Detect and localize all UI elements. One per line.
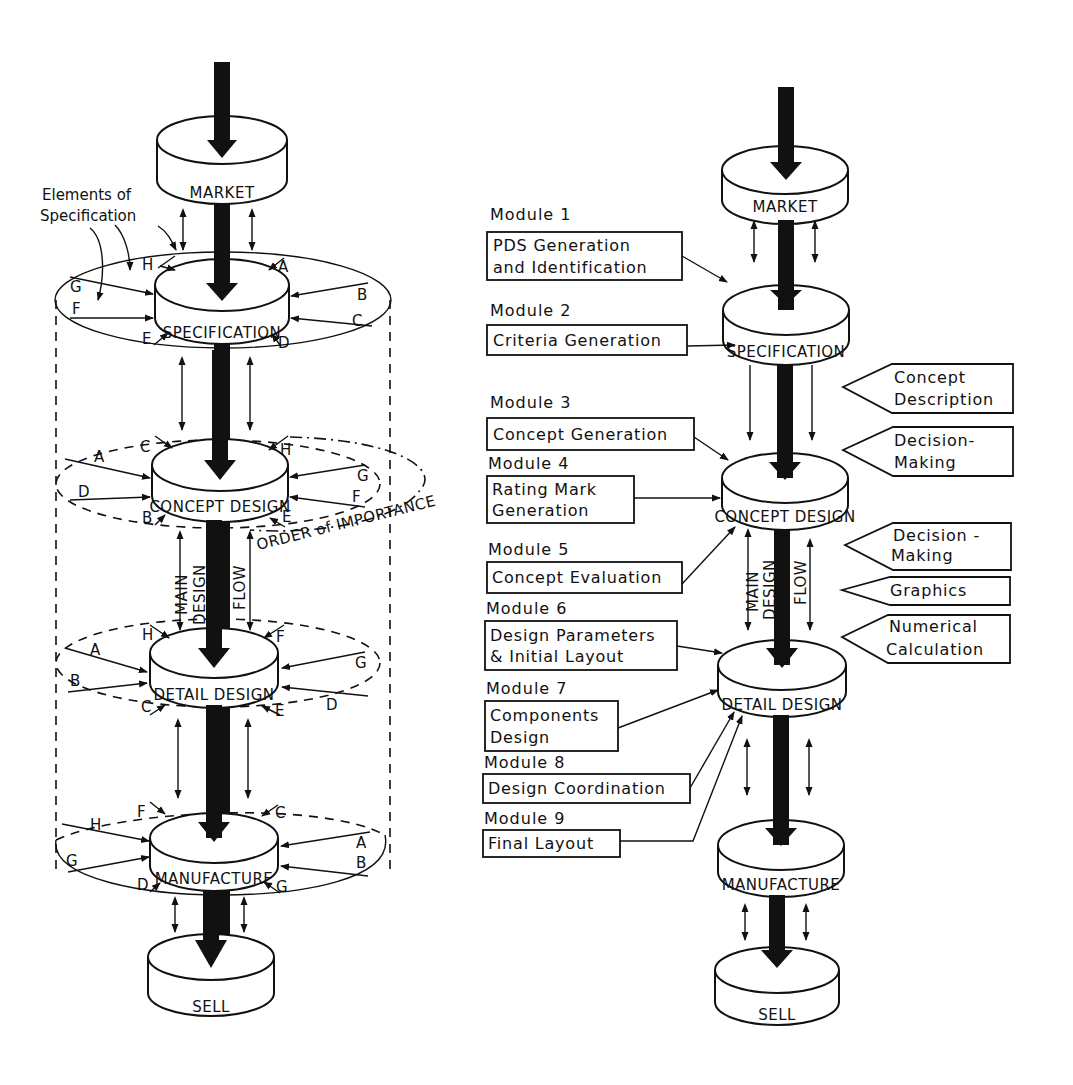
- elements-label: Elements of: [42, 186, 132, 204]
- svg-text:A: A: [278, 258, 289, 276]
- svg-text:Module 5: Module 5: [488, 540, 569, 559]
- svg-text:C: C: [275, 804, 285, 822]
- left-diagram: MARKET SPECIFICATION CONCEPT DESIGN DETA: [40, 62, 438, 1016]
- svg-text:Module 6: Module 6: [486, 599, 567, 618]
- tool-concept-description: Concept Description: [843, 364, 1013, 413]
- module-3: Module 3 Concept Generation: [487, 393, 728, 460]
- svg-text:F: F: [72, 300, 81, 318]
- manufacture-stage: MANUFACTURE: [150, 705, 278, 891]
- svg-text:A: A: [94, 448, 105, 466]
- svg-text:Graphics: Graphics: [890, 581, 967, 600]
- flow-label-design-right: DESIGN: [761, 559, 779, 620]
- flow-label-flow: FLOW: [231, 565, 249, 610]
- svg-text:Module 8: Module 8: [484, 753, 565, 772]
- svg-text:H: H: [280, 441, 291, 459]
- stage-label: MANUFACTURE: [155, 870, 274, 888]
- stage-label: MANUFACTURE: [722, 876, 841, 894]
- svg-text:H: H: [90, 816, 101, 834]
- stage-label: SPECIFICATION: [727, 343, 846, 361]
- sell-stage-right: SELL: [715, 895, 839, 1025]
- svg-text:Module 7: Module 7: [486, 679, 567, 698]
- svg-text:G: G: [355, 654, 367, 672]
- stage-label: DETAIL DESIGN: [721, 696, 842, 714]
- svg-text:and Identification: and Identification: [493, 258, 648, 277]
- tool-decision-making-2: Decision - Making: [845, 523, 1011, 570]
- svg-text:H: H: [142, 256, 153, 274]
- svg-text:PDS Generation: PDS Generation: [493, 236, 631, 255]
- svg-text:A: A: [356, 834, 367, 852]
- svg-text:F: F: [137, 803, 146, 821]
- svg-text:D: D: [278, 334, 290, 352]
- tool-graphics: Graphics: [842, 577, 1010, 605]
- svg-text:E: E: [142, 330, 151, 348]
- sell-stage: SELL: [148, 890, 274, 1016]
- svg-text:E: E: [275, 702, 284, 720]
- stage-label: SELL: [192, 998, 230, 1016]
- stage-label: SPECIFICATION: [163, 324, 282, 342]
- svg-text:G: G: [70, 278, 82, 296]
- stage-label: CONCEPT DESIGN: [714, 508, 855, 526]
- market-stage-right: MARKET: [722, 87, 848, 224]
- tool-numerical-calculation: Numerical Calculation: [842, 615, 1010, 663]
- manufacture-stage-right: MANUFACTURE: [718, 715, 844, 897]
- module-5: Module 5 Concept Evaluation: [487, 527, 735, 593]
- svg-text:B: B: [357, 286, 367, 304]
- svg-text:Components: Components: [490, 706, 599, 725]
- stage-label: CONCEPT DESIGN: [149, 498, 290, 516]
- stage-label: MARKET: [189, 184, 254, 202]
- svg-text:Module 4: Module 4: [488, 454, 569, 473]
- svg-text:Concept Evaluation: Concept Evaluation: [492, 568, 662, 587]
- svg-text:Generation: Generation: [492, 501, 589, 520]
- svg-text:Decision -: Decision -: [893, 526, 980, 545]
- svg-text:Calculation: Calculation: [886, 640, 984, 659]
- svg-text:C: C: [141, 698, 151, 716]
- module-4: Module 4 Rating Mark Generation: [487, 454, 720, 523]
- svg-text:Design Coordination: Design Coordination: [488, 779, 666, 798]
- svg-text:Making: Making: [894, 453, 956, 472]
- stage-label: SELL: [758, 1006, 796, 1024]
- svg-text:A: A: [90, 641, 101, 659]
- tool-decision-making-1: Decision- Making: [843, 427, 1013, 476]
- right-diagram: MARKET SPECIFICATION CONCEPT DESIGN DETA…: [483, 87, 1013, 1025]
- flow-label-design: DESIGN: [191, 564, 209, 625]
- svg-text:Making: Making: [891, 546, 953, 565]
- svg-text:D: D: [137, 876, 149, 894]
- svg-text:Final Layout: Final Layout: [488, 834, 594, 853]
- svg-text:Concept Generation: Concept Generation: [493, 425, 668, 444]
- svg-text:Module 9: Module 9: [484, 809, 565, 828]
- svg-text:Module 3: Module 3: [490, 393, 571, 412]
- flow-label-flow-right: FLOW: [792, 560, 810, 605]
- stage-label: DETAIL DESIGN: [153, 686, 274, 704]
- concept-design-stage: CONCEPT DESIGN: [149, 350, 290, 522]
- stage-label: MARKET: [752, 198, 817, 216]
- svg-text:B: B: [142, 509, 152, 527]
- specification-stage-right: SPECIFICATION: [723, 220, 849, 365]
- concept-design-stage-right: CONCEPT DESIGN: [714, 365, 855, 530]
- module-1: Module 1 PDS Generation and Identificati…: [487, 205, 727, 282]
- detail-design-stage-right: DETAIL DESIGN: [718, 530, 846, 717]
- svg-text:C: C: [352, 312, 362, 330]
- svg-text:Concept: Concept: [894, 368, 966, 387]
- svg-text:F: F: [276, 628, 285, 646]
- svg-text:B: B: [356, 854, 366, 872]
- svg-text:F: F: [352, 488, 361, 506]
- svg-text:Rating Mark: Rating Mark: [492, 480, 597, 499]
- elements-label-2: Specification: [40, 207, 136, 225]
- flow-label-main: MAIN: [173, 574, 191, 615]
- svg-text:H: H: [142, 626, 153, 644]
- svg-text:Criteria Generation: Criteria Generation: [493, 331, 662, 350]
- svg-text:D: D: [78, 483, 90, 501]
- svg-text:Module 2: Module 2: [490, 301, 571, 320]
- svg-text:Numerical: Numerical: [889, 617, 978, 636]
- svg-text:Design Parameters: Design Parameters: [490, 626, 656, 645]
- svg-text:G: G: [66, 852, 78, 870]
- svg-text:G: G: [276, 878, 288, 896]
- svg-text:C: C: [140, 438, 150, 456]
- svg-text:E: E: [282, 508, 291, 526]
- svg-text:Decision-: Decision-: [894, 431, 975, 450]
- module-7: Module 7 Components Design: [485, 679, 718, 751]
- design-core-diagram: MARKET SPECIFICATION CONCEPT DESIGN DETA: [0, 0, 1073, 1085]
- module-2: Module 2 Criteria Generation: [487, 301, 735, 355]
- svg-text:Description: Description: [894, 390, 994, 409]
- svg-text:& Initial Layout: & Initial Layout: [490, 647, 624, 666]
